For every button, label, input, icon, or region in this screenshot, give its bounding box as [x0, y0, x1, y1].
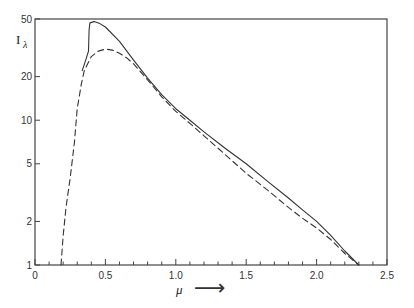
x-tick-label: 0.5	[98, 270, 112, 281]
y-tick-label: 1	[26, 260, 32, 271]
y-tick-label: 20	[21, 71, 33, 82]
y-axis-label: I λ	[16, 32, 28, 50]
series-solid-line	[82, 22, 359, 265]
x-axis-label-main: μ	[175, 282, 183, 297]
y-tick-label: 2	[26, 216, 32, 227]
x-tick-label: 0	[32, 270, 38, 281]
y-axis-ticks: 125102050	[21, 14, 40, 271]
y-tick-label: 5	[26, 158, 32, 169]
series-dashed-line	[61, 49, 359, 265]
arrow-right-icon: ⟶	[194, 275, 226, 300]
y-tick-label: 50	[21, 14, 33, 25]
y-tick-label: 10	[21, 115, 33, 126]
y-axis-label-main: I	[16, 32, 20, 47]
chart: 00.51.01.52.02.5 125102050 I λ μ ⟶	[0, 0, 414, 308]
x-tick-label: 2.0	[310, 270, 324, 281]
x-tick-label: 1.0	[169, 270, 183, 281]
series-group	[61, 22, 359, 265]
x-tick-label: 2.5	[380, 270, 394, 281]
y-axis-label-subscript: λ	[22, 39, 28, 50]
x-tick-label: 1.5	[239, 270, 253, 281]
